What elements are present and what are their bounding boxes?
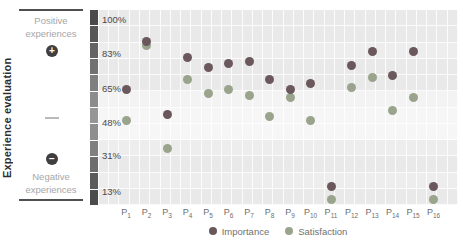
y-tick-100%: 100% (102, 14, 126, 26)
legend-label-importance: Importance (222, 226, 270, 237)
x-label-P10: P10 (300, 207, 322, 219)
legend-dot-satisfaction (285, 227, 293, 235)
x-label-P4: P4 (177, 207, 199, 219)
x-label-P13: P13 (361, 207, 383, 219)
positive-label-line2: experiences (18, 28, 84, 40)
importance-dot-P5 (204, 63, 213, 72)
x-label-P7: P7 (238, 207, 260, 219)
importance-dot-P12 (347, 61, 356, 70)
legend-item-satisfaction: Satisfaction (285, 226, 347, 237)
importance-dot-P14 (388, 71, 397, 80)
evaluation-panel: Positive experiences + − Negative experi… (18, 0, 86, 210)
minus-circle-icon: − (46, 153, 58, 165)
importance-dot-P4 (183, 53, 192, 62)
x-label-P12: P12 (341, 207, 363, 219)
x-label-P3: P3 (156, 207, 178, 219)
y-tick-83%: 83% (102, 48, 121, 60)
strip-segment-11 (90, 173, 98, 188)
importance-dot-P6 (224, 59, 233, 68)
negative-label-line2: experiences (18, 184, 84, 196)
x-label-P6: P6 (218, 207, 240, 219)
strip-segment-5 (90, 75, 98, 90)
satisfaction-dot-P14 (388, 106, 397, 115)
strip-segment-8 (90, 124, 98, 139)
x-label-P11: P11 (320, 207, 342, 219)
importance-dot-P3 (163, 110, 172, 119)
y-tick-31%: 31% (102, 150, 121, 162)
strip-segment-12 (90, 190, 98, 205)
strip-segment-1 (90, 10, 98, 25)
satisfaction-dot-P13 (368, 73, 377, 82)
gradient-scale-strip (90, 10, 98, 205)
importance-dot-P1 (122, 85, 131, 94)
importance-dot-P7 (245, 57, 254, 66)
x-label-P5: P5 (197, 207, 219, 219)
y-tick-48%: 48% (102, 117, 121, 129)
strip-segment-6 (90, 92, 98, 107)
satisfaction-dot-P16 (429, 195, 438, 204)
x-label-P2: P2 (136, 207, 158, 219)
legend: ImportanceSatisfaction (98, 224, 458, 238)
x-axis: P1P2P3P4P5P6P7P8P9P10P11P12P13P14P15P16 (98, 205, 458, 221)
satisfaction-dot-P8 (265, 112, 274, 121)
positive-label-line1: Positive (18, 15, 84, 27)
y-axis-title: Experience evaluation (1, 42, 17, 194)
importance-dot-P13 (368, 47, 377, 56)
strip-segment-10 (90, 157, 98, 172)
satisfaction-dot-P15 (409, 93, 418, 102)
y-tick-13%: 13% (102, 186, 121, 198)
satisfaction-dot-P5 (204, 89, 213, 98)
legend-label-satisfaction: Satisfaction (298, 226, 347, 237)
neutral-dash-icon (45, 117, 59, 119)
panel-bottom-divider (19, 199, 83, 201)
importance-dot-P9 (286, 85, 295, 94)
strip-segment-7 (90, 108, 98, 123)
strip-segment-9 (90, 141, 98, 156)
satisfaction-dot-P7 (245, 91, 254, 100)
satisfaction-dot-P3 (163, 144, 172, 153)
satisfaction-dot-P4 (183, 75, 192, 84)
plus-circle-icon: + (46, 45, 58, 57)
satisfaction-dot-P11 (327, 195, 336, 204)
legend-item-importance: Importance (209, 226, 270, 237)
plot-area: 100%83%65%48%31%13% (98, 10, 458, 205)
experience-evaluation-chart: Experience evaluation Positive experienc… (0, 0, 463, 241)
importance-dot-P11 (327, 182, 336, 191)
importance-dot-P16 (429, 182, 438, 191)
importance-dot-P8 (265, 75, 274, 84)
strip-segment-2 (90, 26, 98, 41)
importance-dot-P15 (409, 47, 418, 56)
negative-label-line1: Negative (18, 171, 84, 183)
satisfaction-dot-P9 (286, 93, 295, 102)
x-label-P1: P1 (115, 207, 137, 219)
strip-segment-3 (90, 43, 98, 58)
x-label-P16: P16 (423, 207, 445, 219)
satisfaction-dot-P12 (347, 83, 356, 92)
x-label-P9: P9 (279, 207, 301, 219)
importance-dot-P10 (306, 79, 315, 88)
satisfaction-dot-P1 (122, 116, 131, 125)
satisfaction-dot-P10 (306, 116, 315, 125)
x-label-P14: P14 (382, 207, 404, 219)
strip-segment-4 (90, 59, 98, 74)
satisfaction-dot-P6 (224, 85, 233, 94)
panel-top-divider (19, 9, 83, 11)
legend-dot-importance (209, 227, 217, 235)
x-label-P15: P15 (402, 207, 424, 219)
x-label-P8: P8 (259, 207, 281, 219)
y-tick-65%: 65% (102, 83, 121, 95)
